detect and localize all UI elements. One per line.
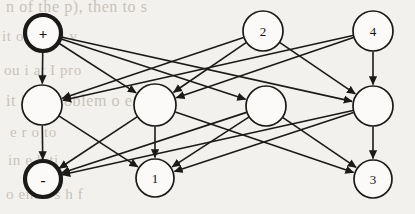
graph-edge: [63, 35, 353, 100]
graph-node[interactable]: 4: [353, 11, 393, 51]
graph-edge: [283, 118, 356, 168]
graph-edge: [62, 110, 353, 174]
graph-node[interactable]: 3: [354, 160, 392, 198]
node-label: 4: [370, 24, 377, 39]
graph-node[interactable]: [246, 86, 286, 126]
node-circle[interactable]: [353, 86, 393, 126]
graph-node[interactable]: -: [25, 161, 61, 197]
figure-canvas: n of the p), then to s it o a 1 to v ou …: [0, 0, 415, 214]
node-label: 3: [370, 172, 377, 187]
graph-node[interactable]: [134, 84, 176, 126]
graph-node[interactable]: [353, 86, 393, 126]
node-circle[interactable]: [22, 85, 62, 125]
node-label: -: [41, 172, 46, 188]
graph-node[interactable]: [22, 85, 62, 125]
graph-node[interactable]: +: [25, 15, 61, 51]
graph-node[interactable]: 2: [243, 11, 283, 51]
node-circle[interactable]: [134, 84, 176, 126]
node-label: +: [39, 26, 48, 42]
node-label: 2: [260, 24, 267, 39]
node-label: 1: [152, 171, 159, 186]
graph-diagram: +24-13: [0, 0, 415, 214]
edge-layer: [42, 35, 373, 174]
graph-node[interactable]: 1: [136, 159, 174, 197]
node-circle[interactable]: [246, 86, 286, 126]
